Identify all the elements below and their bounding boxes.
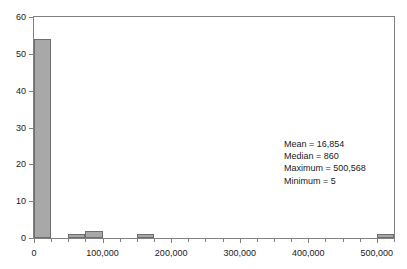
x-tick-mark [171,239,172,243]
histogram-chart: 0102030405060 Mean = 16,854 Median = 860… [0,0,407,269]
x-minor-tick-mark [274,239,275,242]
x-minor-tick-mark [137,239,138,242]
stat-maximum: Maximum = 500,568 [284,162,366,174]
x-tick-mark [34,239,35,243]
histogram-bar [137,234,154,238]
y-tick-label: 0 [4,234,26,243]
x-minor-tick-mark [394,239,395,242]
x-minor-tick-mark [291,239,292,242]
x-minor-tick-mark [120,239,121,242]
x-tick-label: 300,000 [223,248,256,258]
plot-frame: Mean = 16,854 Median = 860 Maximum = 500… [33,16,395,239]
histogram-bar [377,234,394,238]
x-tick-label: 100,000 [86,248,119,258]
histogram-bar [85,231,102,238]
y-axis: 0102030405060 [0,16,33,239]
y-tick-label: 50 [4,49,26,58]
plot-area [34,17,394,238]
x-tick-mark [103,239,104,243]
y-tick-label: 20 [4,160,26,169]
stat-mean: Mean = 16,854 [284,138,366,150]
histogram-bar [34,39,51,238]
x-tick-label: 200,000 [155,248,188,258]
x-minor-tick-mark [223,239,224,242]
x-minor-tick-mark [85,239,86,242]
x-minor-tick-mark [154,239,155,242]
x-minor-tick-mark [51,239,52,242]
x-minor-tick-mark [360,239,361,242]
y-tick-label: 10 [4,197,26,206]
x-tick-label: 0 [31,248,36,258]
x-minor-tick-mark [205,239,206,242]
y-tick-label: 40 [4,86,26,95]
y-tick-label: 30 [4,123,26,132]
y-tick-label: 60 [4,13,26,22]
x-minor-tick-mark [188,239,189,242]
x-axis: 0100,000200,000300,000400,000500,000 [33,239,395,269]
x-minor-tick-mark [325,239,326,242]
x-minor-tick-mark [343,239,344,242]
x-minor-tick-mark [68,239,69,242]
x-tick-mark [240,239,241,243]
x-tick-label: 400,000 [292,248,325,258]
x-minor-tick-mark [257,239,258,242]
x-tick-mark [308,239,309,243]
statistics-annotation: Mean = 16,854 Median = 860 Maximum = 500… [284,138,366,187]
y-axis-tick-labels: 0102030405060 [0,16,26,239]
stat-median: Median = 860 [284,150,366,162]
histogram-bar [68,234,85,238]
x-tick-mark [377,239,378,243]
x-tick-label: 500,000 [361,248,394,258]
stat-minimum: Minimum = 5 [284,175,366,187]
